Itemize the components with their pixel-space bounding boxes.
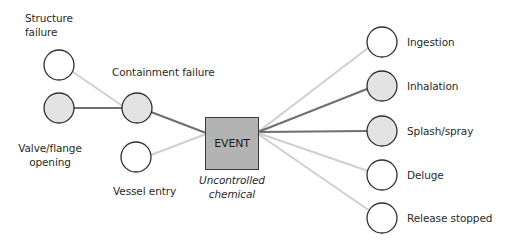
node-structure-failure <box>44 50 74 80</box>
event-label: EVENT <box>214 137 249 150</box>
node-release-stopped <box>367 203 397 233</box>
label-splash-spray: Splash/spray <box>407 125 473 138</box>
edge-containment-event <box>151 112 206 133</box>
edge-event-release <box>258 134 370 211</box>
label-valve-flange-line2: opening <box>29 156 71 169</box>
label-structure-failure-line2: failure <box>25 26 57 39</box>
node-vessel-entry <box>121 142 151 172</box>
label-ingestion: Ingestion <box>407 36 455 49</box>
edge-event-ingestion <box>258 48 368 132</box>
node-splash-spray <box>367 116 397 146</box>
node-valve-flange-opening <box>44 93 74 123</box>
edge-event-inhalation <box>258 89 367 132</box>
edge-event-splash <box>258 131 367 132</box>
label-containment-failure: Containment failure <box>112 66 215 79</box>
label-deluge: Deluge <box>407 169 444 182</box>
event-caption-line2: chemical <box>209 188 255 201</box>
label-inhalation: Inhalation <box>407 80 458 93</box>
node-deluge <box>367 160 397 190</box>
label-valve-flange-line1: Valve/flange <box>18 142 82 155</box>
label-vessel-entry: Vessel entry <box>113 185 176 198</box>
node-inhalation <box>367 71 397 101</box>
label-release-stopped: Release stopped <box>407 212 492 225</box>
edge-event-deluge <box>258 133 368 171</box>
event-box: EVENT <box>205 117 259 170</box>
node-ingestion <box>367 27 397 57</box>
label-structure-failure-line1: Structure <box>25 12 73 25</box>
node-containment-failure <box>122 93 152 123</box>
edge-vessel-event <box>151 134 206 155</box>
event-caption-line1: Uncontrolled <box>199 174 265 187</box>
